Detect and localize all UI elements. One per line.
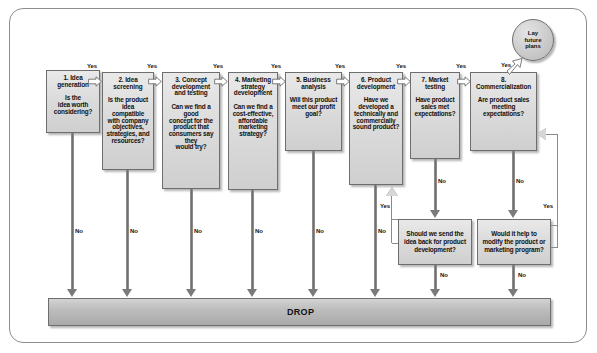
yes-label-fb1: Yes xyxy=(380,203,390,209)
yes-label-fb2: Yes xyxy=(543,203,553,209)
no-arrowhead-5 xyxy=(308,289,318,297)
yes-arrow-2-3 xyxy=(148,76,162,87)
yes-arrow-7-8 xyxy=(457,76,471,87)
no-line-8 xyxy=(512,151,515,211)
drop-label: DROP xyxy=(287,307,314,317)
yes-label-7: Yes xyxy=(456,63,466,69)
no-line-4 xyxy=(251,190,254,290)
yes-label-3: Yes xyxy=(213,63,223,69)
stage-6-title: 6. Productdevelopment xyxy=(352,77,400,90)
stage-8-title: 8. Commercialization xyxy=(473,77,534,90)
stage-4-question: Can we find acost-effective,affordablema… xyxy=(231,104,275,138)
stage-6-question: Have wedeveloped atechnically andcommerc… xyxy=(352,97,400,131)
stage-3-title: 3. Conceptdevelopmentand testing xyxy=(165,77,217,97)
yes-label-8-circle: Yes xyxy=(501,62,511,68)
no-label-fb2: No xyxy=(518,272,526,278)
yes-arrow-5-6 xyxy=(336,76,350,87)
no-arrowhead-7 xyxy=(430,210,440,218)
no-label-fb1: No xyxy=(440,272,448,278)
stage-box-7: 7. Markettesting Have productsales metex… xyxy=(410,72,460,159)
stage-3-question: Can we find a goodconcept for theproduct… xyxy=(165,104,217,151)
fb2-yes-riser xyxy=(557,135,558,247)
no-line-2 xyxy=(126,170,129,290)
stage-box-5: 5. Business analysis Will this productme… xyxy=(285,72,342,151)
fb1-yes-stub xyxy=(392,219,398,220)
feedback-box-2: Would it help tomodify the product ormar… xyxy=(477,219,551,265)
circle-line-1: Lay xyxy=(528,30,538,37)
stage-box-8: 8. Commercialization Are product salesme… xyxy=(470,72,537,151)
no-line-fb2 xyxy=(512,265,515,290)
no-line-7 xyxy=(434,159,437,211)
no-arrowhead-8 xyxy=(508,210,518,218)
no-label-3: No xyxy=(194,228,202,234)
fb2-yes-top-run xyxy=(546,134,558,135)
stage-box-2: 2. Idea screening Is the productidea com… xyxy=(102,72,154,170)
no-line-5 xyxy=(312,151,315,290)
no-arrowhead-2 xyxy=(122,289,132,297)
yes-arrow-1-2 xyxy=(88,76,102,87)
no-label-8: No xyxy=(516,178,524,184)
yes-label-6: Yes xyxy=(396,63,406,69)
yes-arrow-4-5 xyxy=(272,76,286,87)
stage-2-question: Is the productidea compatiblewith compan… xyxy=(105,97,151,144)
fb2-yes-stub-bottom xyxy=(551,247,558,248)
no-label-2: No xyxy=(130,228,138,234)
no-label-6: No xyxy=(378,228,386,234)
stage-box-4: 4. Marketingstrategydevelopment Can we f… xyxy=(228,72,278,190)
yes-label-1: Yes xyxy=(87,63,97,69)
stage-1-question: Is theidea worthconsidering? xyxy=(49,95,97,115)
stage-box-6: 6. Productdevelopment Have wedeveloped a… xyxy=(349,72,403,185)
yes-label-4: Yes xyxy=(271,63,281,69)
no-line-1 xyxy=(71,133,74,290)
no-label-7: No xyxy=(438,178,446,184)
no-arrowhead-fb1 xyxy=(430,289,440,297)
stage-4-title: 4. Marketingstrategydevelopment xyxy=(231,77,275,97)
diagram-canvas: 1. Ideageneration Is theidea worthconsid… xyxy=(0,0,597,353)
stage-box-3: 3. Conceptdevelopmentand testing Can we … xyxy=(162,72,220,189)
no-arrowhead-6 xyxy=(370,289,380,297)
stage-2-title: 2. Idea screening xyxy=(105,77,151,90)
no-line-3 xyxy=(190,189,193,290)
stage-7-question: Have productsales metexpectations? xyxy=(413,97,457,117)
circle-line-3: plans xyxy=(525,43,541,50)
fb1-yes-riser xyxy=(391,196,392,243)
no-arrowhead-3 xyxy=(186,289,196,297)
stage-5-title: 5. Business analysis xyxy=(288,77,339,90)
stage-5-question: Will this productmeet our profitgoal? xyxy=(288,97,339,117)
no-label-4: No xyxy=(255,228,263,234)
yes-arrow-6-7 xyxy=(397,76,411,87)
no-arrowhead-1 xyxy=(67,289,77,297)
drop-bar: DROP xyxy=(48,298,551,326)
diagram-frame xyxy=(9,8,587,343)
no-line-fb1 xyxy=(434,265,437,290)
yes-arrow-3-4 xyxy=(214,76,228,87)
fb1-yes-stub-lower xyxy=(392,243,398,244)
no-line-6 xyxy=(374,185,377,290)
fb2-yes-arrowhead xyxy=(537,128,546,140)
stage-8-question: Are product salesmeetingexpectations? xyxy=(473,97,534,117)
stage-7-title: 7. Markettesting xyxy=(413,77,457,90)
yes-label-2: Yes xyxy=(147,63,157,69)
no-label-1: No xyxy=(75,228,83,234)
no-arrowhead-4 xyxy=(247,289,257,297)
no-arrowhead-fb2 xyxy=(508,289,518,297)
yes-label-5: Yes xyxy=(335,63,345,69)
fb1-yes-arrowhead xyxy=(386,187,398,196)
no-label-5: No xyxy=(316,228,324,234)
circle-line-2: future xyxy=(525,37,542,44)
feedback-box-1: Should we send theidea back for productd… xyxy=(398,219,472,265)
